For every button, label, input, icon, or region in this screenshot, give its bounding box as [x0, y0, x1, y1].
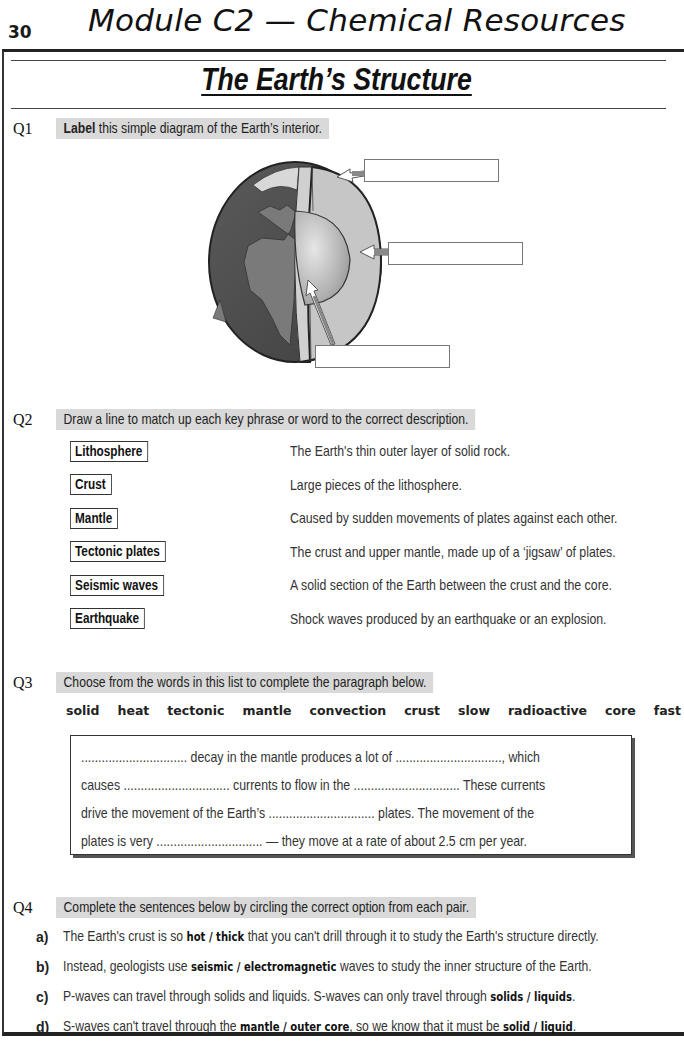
term-tectonic-plates[interactable]: Tectonic plates — [70, 541, 166, 562]
word-bank-item: tectonic — [167, 703, 224, 718]
earth-cross-section-icon — [0, 0, 673, 400]
description-1[interactable]: The Earth's thin outer layer of solid ro… — [290, 443, 510, 459]
option-pair[interactable]: mantle / outer core — [240, 1020, 349, 1034]
question-number-q2: Q2 — [13, 411, 33, 429]
sentence-text: P-waves can travel through solids and li… — [63, 988, 490, 1004]
word-bank-item: fast — [654, 703, 681, 718]
sentence-c: P-waves can travel through solids and li… — [63, 988, 575, 1004]
description-6[interactable]: Shock waves produced by an earthquake or… — [290, 611, 607, 627]
question-number-q4: Q4 — [13, 899, 33, 917]
word-bank: solid heat tectonic mantle convection cr… — [66, 703, 681, 718]
option-pair[interactable]: solid / liquid — [503, 1020, 573, 1034]
sentence-a: The Earth's crust is so hot / thick that… — [63, 928, 599, 944]
description-5[interactable]: A solid section of the Earth between the… — [290, 577, 612, 593]
term-seismic-waves[interactable]: Seismic waves — [70, 575, 164, 596]
sentence-text: S-waves can't travel through the — [63, 1018, 240, 1034]
option-pair[interactable]: seismic / electromagnetic — [191, 960, 337, 974]
word-bank-item: mantle — [242, 703, 291, 718]
description-3[interactable]: Caused by sudden movements of plates aga… — [290, 510, 618, 526]
term-mantle[interactable]: Mantle — [70, 508, 118, 529]
diagram-label-box-core[interactable] — [315, 345, 450, 368]
q3-prompt: Choose from the words in this list to co… — [56, 672, 433, 693]
word-bank-item: crust — [404, 703, 440, 718]
question-number-q3: Q3 — [13, 674, 33, 692]
sentence-text: The Earth's crust is so — [63, 928, 186, 944]
diagram-label-box-crust[interactable] — [364, 159, 499, 182]
word-bank-item: heat — [118, 703, 150, 718]
paragraph-line-3[interactable]: drive the movement of the Earth’s ......… — [81, 805, 534, 821]
term-lithosphere[interactable]: Lithosphere — [70, 441, 148, 462]
paragraph-box: ............................... decay in… — [70, 735, 632, 855]
sentence-text: . — [573, 1018, 576, 1034]
option-pair[interactable]: hot / thick — [186, 930, 244, 944]
word-bank-item: convection — [309, 703, 386, 718]
word-bank-item: slow — [458, 703, 490, 718]
sentence-d: S-waves can't travel through the mantle … — [63, 1018, 576, 1034]
paragraph-line-4[interactable]: plates is very .........................… — [81, 833, 527, 849]
sentence-text: waves to study the inner structure of th… — [337, 958, 592, 974]
term-crust[interactable]: Crust — [70, 474, 112, 495]
paragraph-line-1[interactable]: ............................... decay in… — [81, 749, 540, 765]
q4-prompt: Complete the sentences below by circling… — [56, 897, 476, 918]
part-letter-b: b) — [36, 959, 49, 975]
part-letter-a: a) — [36, 929, 48, 945]
word-bank-item: radioactive — [508, 703, 587, 718]
term-earthquake[interactable]: Earthquake — [70, 608, 145, 629]
diagram-label-box-mantle[interactable] — [388, 242, 523, 265]
part-letter-d: d) — [36, 1019, 49, 1035]
sentence-text: . — [572, 988, 575, 1004]
part-letter-c: c) — [36, 989, 48, 1005]
sentence-text: Instead, geologists use — [63, 958, 191, 974]
sentence-b: Instead, geologists use seismic / electr… — [63, 958, 592, 974]
option-pair[interactable]: solids / liquids — [490, 990, 572, 1004]
sentence-text: , so we know that it must be — [349, 1018, 503, 1034]
word-bank-item: core — [605, 703, 636, 718]
sentence-text: that you can't drill through it to study… — [244, 928, 598, 944]
description-4[interactable]: The crust and upper mantle, made up of a… — [290, 544, 616, 560]
description-2[interactable]: Large pieces of the lithosphere. — [290, 477, 462, 493]
paragraph-line-2[interactable]: causes ............................... c… — [81, 777, 545, 793]
word-bank-item: solid — [66, 703, 100, 718]
q2-prompt: Draw a line to match up each key phrase … — [56, 409, 475, 430]
